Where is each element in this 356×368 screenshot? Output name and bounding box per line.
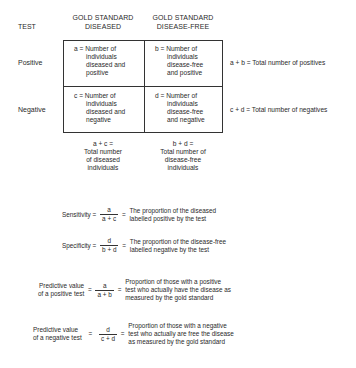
denominator: b + d (100, 246, 118, 254)
formula-name: Predictive value of a positive test (38, 282, 84, 298)
cell-c: c = Number of individuals diseased and n… (74, 92, 125, 124)
cell-line: negative (74, 116, 125, 124)
cell-line: disease-free (155, 61, 203, 69)
cell-line: individuals (155, 100, 205, 108)
equals-sign: = (116, 286, 124, 294)
equals-sign: = (119, 330, 127, 338)
cell-d: d = Number of individuals disease-free a… (155, 92, 205, 124)
total-line: individuals (63, 164, 143, 172)
row-label-negative: Negative (18, 106, 46, 115)
desc-line: The proportion of the disease-free (130, 238, 226, 246)
total-line: Total number of (143, 148, 223, 156)
cell-line: individuals (74, 100, 125, 108)
total-line: b + d = (143, 140, 223, 148)
total-line: a + c = (63, 140, 143, 148)
header-line: GOLD STANDARD (143, 14, 223, 23)
header-line: DISEASED (63, 23, 143, 32)
fraction: d c + d (99, 326, 117, 343)
positive-predictive-value-formula: Predictive value of a positive test = a … (38, 278, 231, 302)
cell-line: diseased and (74, 108, 125, 116)
cell-line: d = Number of (155, 92, 197, 99)
equals-sign: = (120, 242, 128, 250)
cell-line: and negative (155, 116, 205, 124)
desc-line: test who actually have the disease as (125, 286, 231, 294)
numerator: a (100, 206, 118, 215)
grid-divider-horizontal (64, 86, 222, 87)
fraction: d b + d (100, 237, 118, 254)
test-header: TEST (18, 23, 36, 32)
desc-line: Proportion of those with a positive (125, 278, 231, 286)
column-total-diseased: a + c = Total number of diseased individ… (63, 140, 143, 172)
desc-line: as measured by the gold standard (128, 338, 234, 346)
denominator: a + c (100, 215, 118, 223)
header-line: DISEASE-FREE (143, 23, 223, 32)
cell-line: a = Number of (74, 45, 116, 52)
cell-line: positive (74, 69, 125, 77)
cell-line: b = Number of (155, 45, 197, 52)
total-line: of diseased (63, 156, 143, 164)
cell-a: a = Number of individuals diseased and p… (74, 45, 125, 77)
cell-line: and positive (155, 69, 203, 77)
gold-standard-diseased-header: GOLD STANDARD DISEASED (63, 14, 143, 31)
formula-description: Proportion of those with a negative test… (128, 322, 234, 346)
cell-line: disease-free (155, 108, 205, 116)
formula-description: The proportion of the diseased labelled … (129, 207, 216, 223)
denominator: c + d (99, 335, 117, 343)
formula-name: Specificity = (60, 242, 98, 250)
total-line: Total number (63, 148, 143, 156)
total-line: individuals (143, 164, 223, 172)
formula-description: Proportion of those with a positive test… (125, 278, 231, 302)
name-line: of a positive test (38, 290, 84, 298)
equals-sign: = (120, 211, 128, 219)
desc-line: labelled positive by the test (129, 215, 216, 223)
cell-line: individuals (155, 53, 203, 61)
contingency-table: a = Number of individuals diseased and p… (63, 40, 223, 133)
equals-sign: = (83, 330, 97, 338)
name-line: Predictive value (33, 326, 82, 334)
desc-line: Proportion of those with a negative (128, 322, 234, 330)
formula-name: Predictive value of a negative test (33, 326, 82, 342)
fraction: a a + b (95, 282, 113, 299)
denominator: a + b (95, 291, 113, 299)
numerator: d (100, 237, 118, 246)
specificity-formula: Specificity = d b + d = The proportion o… (60, 237, 226, 254)
desc-line: test who actually are free the disease (128, 330, 234, 338)
row-total-negatives: c + d = Total number of negatives (230, 106, 327, 114)
total-line: disease-free (143, 156, 223, 164)
desc-line: labelled negative by the test (130, 246, 226, 254)
header-line: GOLD STANDARD (63, 14, 143, 23)
sensitivity-formula: Sensitivity = a a + c = The proportion o… (60, 206, 216, 223)
desc-line: The proportion of the diseased (129, 207, 216, 215)
row-label-positive: Positive (18, 59, 43, 68)
fraction: a a + c (100, 206, 118, 223)
gold-standard-disease-free-header: GOLD STANDARD DISEASE-FREE (143, 14, 223, 31)
equals-sign: = (86, 286, 94, 294)
name-line: of a negative test (33, 334, 82, 342)
formula-name: Sensitivity = (60, 211, 98, 219)
name-line: Predictive value (38, 282, 84, 290)
cell-line: diseased and (74, 61, 125, 69)
numerator: d (99, 326, 117, 335)
numerator: a (95, 282, 113, 291)
cell-line: individuals (74, 53, 125, 61)
desc-line: measured by the gold standard (125, 294, 231, 302)
row-total-positives: a + b = Total number of positives (230, 59, 325, 67)
formula-description: The proportion of the disease-free label… (130, 238, 226, 254)
column-total-disease-free: b + d = Total number of disease-free ind… (143, 140, 223, 172)
negative-predictive-value-formula: Predictive value of a negative test = d … (33, 322, 234, 346)
cell-line: c = Number of (74, 92, 116, 99)
cell-b: b = Number of individuals disease-free a… (155, 45, 203, 77)
